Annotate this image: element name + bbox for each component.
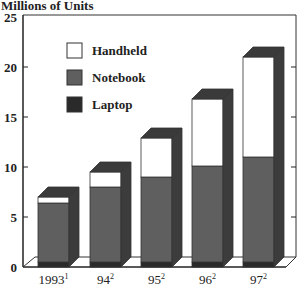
segment-laptop — [90, 262, 121, 267]
stacked-bar-chart: 051015202519931942952962972HandheldNoteb… — [0, 0, 300, 288]
segment-notebook — [192, 166, 223, 262]
y-tick-label: 25 — [4, 10, 18, 25]
bar-side — [172, 128, 182, 267]
x-tick-label: 972 — [250, 272, 267, 287]
floor-left — [23, 257, 35, 267]
y-tick-label: 5 — [11, 210, 18, 225]
segment-handheld — [90, 172, 121, 187]
x-tick-label: 952 — [148, 272, 165, 287]
legend-label-laptop: Laptop — [92, 97, 132, 112]
y-tick-label: 15 — [4, 110, 18, 125]
bar-96 — [192, 89, 233, 267]
legend-swatch-laptop — [67, 97, 82, 112]
bar-1993 — [38, 187, 79, 267]
bar-side — [223, 89, 233, 267]
segment-handheld — [38, 197, 69, 203]
floor-right — [286, 257, 296, 267]
segment-handheld — [141, 138, 172, 177]
bar-97 — [243, 47, 284, 267]
segment-handheld — [243, 57, 274, 157]
legend-label-handheld: Handheld — [92, 43, 148, 58]
segment-handheld — [192, 99, 223, 166]
segment-notebook — [38, 203, 69, 262]
segment-notebook — [141, 177, 172, 262]
segment-laptop — [243, 262, 274, 267]
legend-swatch-handheld — [67, 43, 82, 58]
y-tick-label: 10 — [4, 160, 17, 175]
y-tick-label: 20 — [4, 60, 17, 75]
bar-94 — [90, 162, 131, 267]
legend-swatch-notebook — [67, 70, 82, 85]
x-tick-label: 962 — [199, 272, 216, 287]
x-tick-label: 19931 — [39, 272, 69, 287]
x-tick-label: 942 — [97, 272, 114, 287]
bar-side — [274, 47, 284, 267]
segment-laptop — [38, 262, 69, 267]
legend: HandheldNotebookLaptop — [67, 43, 148, 112]
segment-laptop — [141, 262, 172, 267]
segment-laptop — [192, 262, 223, 267]
legend-label-notebook: Notebook — [92, 70, 146, 85]
bar-95 — [141, 128, 182, 267]
segment-notebook — [243, 157, 274, 262]
y-tick-label: 0 — [11, 260, 18, 275]
segment-notebook — [90, 187, 121, 262]
bar-side — [69, 187, 79, 267]
bar-side — [121, 162, 131, 267]
